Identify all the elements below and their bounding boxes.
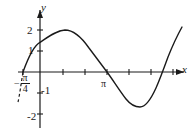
y-tick-label-2: 2 [27, 25, 33, 36]
graph-figure: y x 2 1 -1 -2 π − π 4 [0, 0, 194, 135]
fraction: π 4 [21, 73, 30, 94]
x-axis-label: x [182, 64, 187, 75]
y-tick-label-negative-2: -2 [27, 111, 36, 122]
y-tick-label-1: 1 [28, 45, 34, 56]
fraction-denominator: 4 [22, 84, 29, 94]
y-tick-label-negative-1: -1 [41, 85, 50, 96]
minus-sign: − [14, 79, 20, 89]
x-tick-label-pi: π [101, 79, 106, 89]
y-axis-label: y [41, 2, 46, 13]
fraction-numerator: π [22, 73, 29, 83]
x-tick-label-negative-pi-over-4: − π 4 [14, 73, 30, 94]
